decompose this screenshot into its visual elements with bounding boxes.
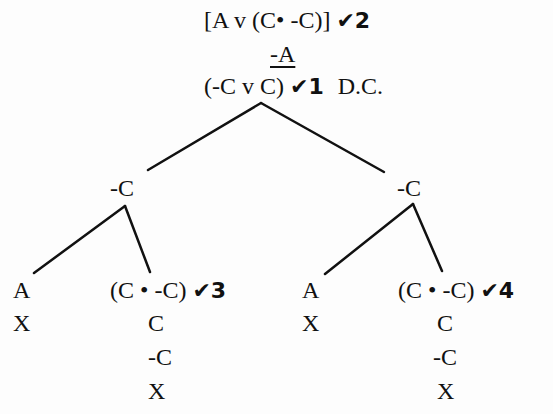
decomposed-formula: C xyxy=(437,311,453,335)
leaf-formula: (C • -C) ✔4 xyxy=(398,278,514,303)
branch-line-top-right xyxy=(261,103,384,172)
branch-line-left-b xyxy=(125,206,150,272)
check-mark-1: ✔1 xyxy=(290,74,324,99)
decomposed-formula: -C xyxy=(148,345,172,369)
branch-node-right: -C xyxy=(397,176,421,200)
check-mark-3: ✔3 xyxy=(192,278,226,303)
derived-line: (-C v C) ✔1 D.C. xyxy=(204,74,383,99)
closed-branch-x: X xyxy=(13,311,30,335)
decomposed-formula: C xyxy=(148,311,164,335)
branch-line-right-a xyxy=(325,204,413,274)
branch-line-left-a xyxy=(34,206,125,273)
check-mark-4: ✔4 xyxy=(480,278,514,303)
premise-line: [A v (C• -C)] ✔2 xyxy=(204,8,370,33)
leaf-formula: A xyxy=(302,278,319,302)
premise-formula: [A v (C• -C)] xyxy=(204,7,330,33)
leaf-formula: A xyxy=(13,278,30,302)
closed-branch-x: X xyxy=(302,311,319,335)
branch-line-top-left xyxy=(148,103,261,170)
check-mark-2: ✔2 xyxy=(336,8,370,33)
branch-line-right-b xyxy=(413,204,442,271)
decomposed-formula: -C xyxy=(433,345,457,369)
leaf-formula: (C • -C) ✔3 xyxy=(110,278,226,303)
derived-formula: (-C v C) xyxy=(204,73,284,99)
branch-node-left: -C xyxy=(110,176,134,200)
closed-branch-x: X xyxy=(437,379,454,403)
justification-label: D.C. xyxy=(338,73,383,99)
closed-branch-x: X xyxy=(148,379,165,403)
negated-conclusion: -A xyxy=(270,42,295,66)
